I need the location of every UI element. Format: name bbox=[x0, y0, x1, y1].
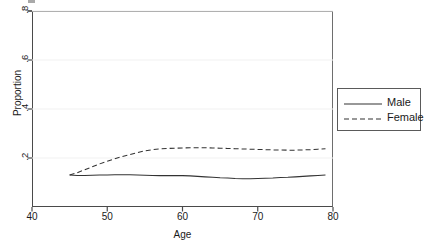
x-tick-label: 50 bbox=[87, 212, 127, 222]
y-tick-marks bbox=[28, 11, 33, 158]
legend-label-male: Male bbox=[387, 97, 411, 108]
legend: Male Female bbox=[337, 88, 421, 131]
x-tick-label: 60 bbox=[163, 212, 203, 222]
legend-label-female: Female bbox=[387, 112, 424, 123]
x-tick-label: 70 bbox=[238, 212, 278, 222]
y-tick-label: .2 bbox=[21, 152, 29, 162]
cropped-edge-artifact bbox=[28, 0, 35, 3]
series-line-male bbox=[70, 175, 326, 179]
y-axis-title: Proportion bbox=[13, 53, 23, 133]
legend-key-dashed-line bbox=[343, 111, 383, 123]
legend-entry-female: Female bbox=[343, 110, 424, 124]
x-tick-label: 80 bbox=[313, 212, 353, 222]
plot-canvas bbox=[32, 11, 333, 207]
legend-key-solid-line bbox=[343, 96, 383, 108]
series-line-female bbox=[70, 148, 326, 175]
x-tick-label: 40 bbox=[12, 212, 52, 222]
x-tick-marks bbox=[32, 207, 333, 212]
legend-entry-male: Male bbox=[343, 95, 411, 109]
y-tick-label: .8 bbox=[21, 5, 29, 15]
gridlines bbox=[32, 11, 333, 158]
x-axis-title: Age bbox=[32, 230, 333, 240]
